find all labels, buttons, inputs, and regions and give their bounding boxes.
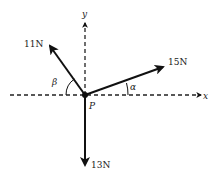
- alpha-angle-arc: [127, 83, 129, 95]
- beta-angle-label: β: [51, 77, 57, 87]
- x-axis-label: x: [203, 91, 208, 101]
- force-diagram: x y β α 11N 15N 13N P: [0, 0, 214, 177]
- force-13n-label: 13N: [91, 160, 110, 170]
- y-axis-label: y: [81, 9, 88, 19]
- origin-point: [82, 92, 88, 98]
- origin-label: P: [88, 101, 96, 111]
- alpha-angle-label: α: [130, 82, 136, 92]
- force-15n-label: 15N: [168, 57, 187, 67]
- beta-angle-arc: [66, 79, 75, 95]
- force-15n-arrow: [85, 67, 163, 95]
- force-11n-label: 11N: [24, 39, 43, 49]
